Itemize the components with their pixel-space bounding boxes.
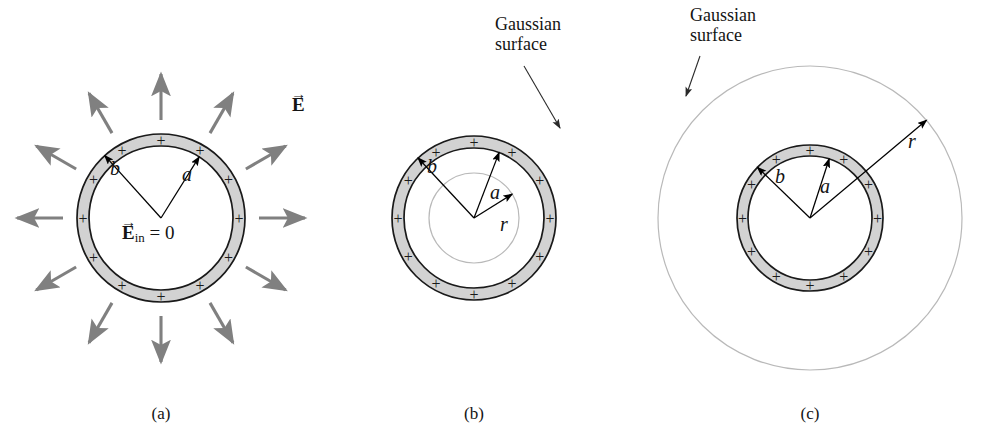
plus-charge-c-0: +: [805, 142, 814, 159]
plus-charge-c-4: +: [864, 243, 873, 260]
gaussian-surface-label-b: Gaussiansurface: [495, 14, 561, 54]
plus-charge-c-9: +: [738, 210, 747, 227]
panel-c: ++++++++++++: [658, 56, 962, 370]
plus-charge-b-2: +: [535, 172, 544, 189]
radius-label-r-b: r: [500, 213, 508, 235]
plus-charge-c-3: +: [873, 210, 882, 227]
gaussian-leader-b: [524, 66, 560, 128]
e-subscript: in: [135, 230, 145, 245]
field-arrow-a-2: [246, 146, 286, 169]
plus-charge-b-1: +: [507, 144, 516, 161]
field-arrow-a-1: [210, 93, 233, 133]
gaussian-label-line1-c: Gaussian: [690, 5, 756, 25]
radius-label-r-c: r: [908, 130, 916, 152]
panel-caption-b: (b): [454, 404, 494, 423]
plus-charge-c-5: +: [839, 268, 848, 285]
plus-charge-b-8: +: [404, 248, 413, 265]
plus-charge-b-0: +: [469, 134, 478, 151]
plus-charge-b-7: +: [431, 275, 440, 292]
e-symbol: →E: [122, 222, 135, 243]
radius-label-a-a: a: [182, 163, 192, 185]
gaussian-label-line2-c: surface: [690, 25, 756, 45]
plus-charge-a-6: +: [156, 288, 165, 305]
panel-a: ++++++++++++: [17, 74, 305, 362]
radius-label-a-c: a: [820, 175, 830, 197]
plus-charge-c-1: +: [839, 151, 848, 168]
plus-charge-a-2: +: [224, 171, 233, 188]
plus-charge-c-6: +: [805, 277, 814, 294]
gaussian-surface-label-c: Gaussiansurface: [690, 5, 756, 45]
plus-charge-b-9: +: [393, 210, 402, 227]
interior-field-label: →Ein = 0: [122, 222, 174, 245]
field-arrow-a-8: [36, 267, 76, 290]
panel-b: ++++++++++++: [392, 66, 560, 303]
plus-charge-b-6: +: [469, 286, 478, 303]
plus-charge-c-2: +: [864, 176, 873, 193]
plus-charge-b-10: +: [404, 172, 413, 189]
plus-charge-a-4: +: [224, 249, 233, 266]
plus-charge-b-3: +: [545, 210, 554, 227]
vector-arrow-icon: →: [291, 85, 306, 102]
radius-arrow-a-a: [161, 157, 199, 218]
gaussian-label-line2-b: surface: [495, 34, 561, 54]
radius-label-b-b: b: [427, 155, 437, 177]
field-arrow-a-7: [89, 303, 112, 343]
field-arrow-a-11: [89, 93, 112, 133]
field-arrow-a-10: [36, 146, 76, 169]
e-symbol: →E: [292, 94, 305, 115]
field-arrow-a-4: [246, 267, 286, 290]
panel-caption-c: (c): [790, 404, 830, 423]
panel-caption-a: (a): [141, 404, 181, 423]
plus-charge-a-0: +: [156, 132, 165, 149]
plus-charge-c-10: +: [747, 176, 756, 193]
plus-charge-a-8: +: [89, 249, 98, 266]
radius-label-b-a: b: [110, 157, 120, 179]
plus-charge-a-10: +: [89, 171, 98, 188]
plus-charge-a-5: +: [195, 277, 204, 294]
plus-charge-a-1: +: [195, 142, 204, 159]
physics-figure-gauss-law-spherical-shell: ++++++++++++++++++++++++++++++++++++ ba→…: [0, 0, 996, 448]
vector-arrow-icon: →: [121, 213, 136, 230]
field-vector-label: →E: [292, 94, 305, 115]
gaussian-leader-c: [686, 56, 700, 96]
plus-charge-a-9: +: [78, 210, 87, 227]
plus-charge-b-4: +: [535, 248, 544, 265]
plus-charge-a-7: +: [117, 277, 126, 294]
plus-charge-a-3: +: [234, 210, 243, 227]
plus-charge-c-8: +: [747, 243, 756, 260]
e-suffix: = 0: [145, 222, 175, 243]
field-arrow-a-5: [210, 303, 233, 343]
gaussian-label-line1-b: Gaussian: [495, 14, 561, 34]
plus-charge-c-7: +: [772, 268, 781, 285]
radius-label-a-b: a: [490, 181, 500, 203]
radius-label-b-c: b: [775, 165, 785, 187]
plus-charge-b-5: +: [507, 275, 516, 292]
